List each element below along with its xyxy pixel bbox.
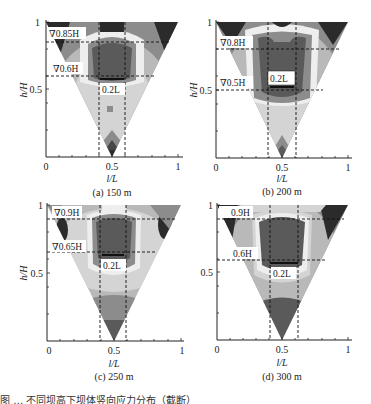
panel-b: ∇0.8H ∇0.5H 0.2L 1 0.5 0 0.5 1 l/L h/H (… — [188, 15, 355, 198]
y-axis-title: h/H — [18, 265, 29, 281]
x-tick-0: 0 — [214, 162, 219, 173]
panel-d: 0.9H 0.6H 0.2L 1 0.5 0 0.5 1 l/L (d) 300… — [201, 200, 356, 383]
x-tick-0: 0 — [44, 161, 49, 172]
y-tick-0.5: 0.5 — [30, 84, 43, 95]
y-axis-title: h/H — [188, 82, 199, 98]
width-label: 0.2L — [103, 261, 121, 271]
upper-level-label: ∇0.85H — [49, 29, 79, 39]
panel-caption: (b) 200 m — [262, 186, 302, 198]
panel-caption: (a) 150 m — [93, 187, 132, 199]
x-tick-1: 1 — [180, 345, 185, 356]
x-tick-0: 0 — [215, 344, 220, 355]
x-tick-1: 1 — [176, 161, 181, 172]
panel-caption: (c) 250 m — [95, 371, 134, 383]
lower-level-label: ∇0.65H — [52, 242, 82, 252]
figure-canvas: ∇0.85H ∇0.6H 0.2L 1 0.5 0 0.5 1 l/L h/H … — [0, 0, 371, 404]
upper-level-label: 0.9H — [231, 208, 250, 218]
width-label: 0.2L — [270, 74, 288, 84]
figure-caption-truncated: 图 … 不同坝高下坝体竖向应力分布（截断） — [0, 392, 371, 404]
x-tick-0: 0 — [47, 345, 52, 356]
lower-level-label: ∇0.5H — [220, 78, 246, 88]
x-tick-1: 1 — [346, 162, 351, 173]
panel-a: ∇0.85H ∇0.6H 0.2L 1 0.5 0 0.5 1 l/L h/H … — [18, 15, 185, 199]
upper-level-label: ∇0.8H — [220, 38, 246, 48]
y-tick-1: 1 — [207, 17, 212, 28]
y-tick-1: 1 — [38, 200, 43, 211]
x-tick-0.5: 0.5 — [108, 345, 121, 356]
width-label: 0.2L — [273, 269, 291, 279]
panel-caption: (d) 300 m — [262, 371, 302, 383]
lower-level-label: 0.6H — [233, 249, 252, 259]
x-axis-title: l/L — [106, 173, 118, 184]
lower-level-label: ∇0.6H — [53, 64, 79, 74]
width-label: 0.2L — [102, 85, 120, 95]
x-axis-title: l/L — [276, 357, 288, 368]
y-tick-0.5: 0.5 — [200, 85, 213, 96]
y-tick-1: 1 — [35, 17, 40, 28]
panel-c: ∇0.9H ∇0.65H 0.2L 1 0.5 0 0.5 1 l/L h/H … — [18, 200, 190, 383]
y-axis-title: h/H — [18, 82, 29, 98]
contour-map-c — [40, 200, 190, 345]
x-axis-title: l/L — [276, 173, 288, 184]
y-tick-1: 1 — [208, 200, 213, 211]
x-tick-0.5: 0.5 — [276, 344, 289, 355]
x-tick-0.5: 0.5 — [106, 161, 119, 172]
x-tick-1: 1 — [346, 344, 351, 355]
x-tick-0.5: 0.5 — [276, 162, 289, 173]
upper-level-label: ∇0.9H — [54, 208, 80, 218]
x-axis-title: l/L — [108, 358, 120, 369]
y-tick-0.5: 0.5 — [31, 268, 44, 279]
y-tick-0.5: 0.5 — [201, 267, 214, 278]
